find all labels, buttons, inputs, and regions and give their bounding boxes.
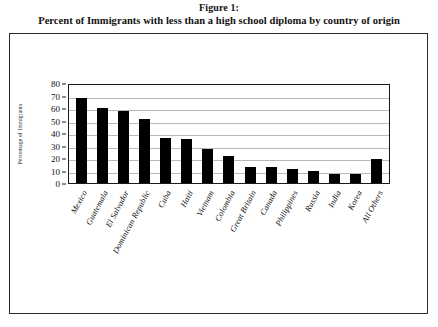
x-label-slot: Guatemala <box>96 186 107 306</box>
y-tick-mark <box>62 159 66 160</box>
plot-area <box>68 84 390 184</box>
bar[interactable] <box>139 119 150 183</box>
bar[interactable] <box>76 98 87 183</box>
x-tick-label: Canada <box>259 189 280 217</box>
bar[interactable] <box>223 156 234 184</box>
bar[interactable] <box>118 111 129 184</box>
y-tick-label: 60 <box>51 105 60 114</box>
figure-caption: Figure 1: Percent of Immigrants with les… <box>0 0 438 28</box>
x-tick-label: Mexico <box>69 189 89 215</box>
bar[interactable] <box>245 167 256 183</box>
figure-title: Percent of Immigrants with less than a h… <box>0 14 438 28</box>
x-tick-label: Korea <box>346 189 364 212</box>
bar[interactable] <box>308 171 319 184</box>
x-tick-label: Haiti <box>178 189 194 209</box>
x-axis-labels: MexicoGuatemalaEl SalvadorDominican Repu… <box>68 186 390 306</box>
x-tick-label: Vietnam <box>195 189 216 218</box>
y-tick-label: 50 <box>51 117 60 126</box>
x-label-slot: Philippines <box>287 186 298 306</box>
x-label-slot: All Others <box>372 186 383 306</box>
figure-number: Figure 1: <box>0 1 438 14</box>
y-tick-label: 10 <box>51 167 60 176</box>
x-tick-label: Philippines <box>274 189 300 228</box>
y-tick-label: 70 <box>51 92 60 101</box>
x-label-slot: Korea <box>351 186 362 306</box>
y-tick-label: 40 <box>51 130 60 139</box>
y-axis-title-label: Percentage of Immigrants <box>17 104 23 164</box>
bars-container <box>69 85 389 183</box>
x-label-slot: Vietnam <box>202 186 213 306</box>
bar[interactable] <box>329 174 340 183</box>
bar[interactable] <box>287 169 298 183</box>
bar[interactable] <box>266 167 277 183</box>
y-axis-title: Percentage of Immigrants <box>14 84 26 184</box>
y-tick-label: 80 <box>51 80 60 89</box>
x-label-slot: India <box>329 186 340 306</box>
y-axis-ticks: 80706050403020100 <box>32 84 66 184</box>
x-label-slot: Great Britain <box>245 186 256 306</box>
x-label-slot: Colombia <box>223 186 234 306</box>
x-tick-label: India <box>326 189 342 209</box>
y-tick-mark <box>62 96 66 97</box>
x-tick-label: Cuba <box>157 189 174 209</box>
x-label-slot: Dominican Republic <box>139 186 150 306</box>
x-label-slot: Cuba <box>160 186 171 306</box>
y-tick-label: 30 <box>51 142 60 151</box>
bar[interactable] <box>97 108 108 183</box>
bar[interactable] <box>202 149 213 183</box>
y-tick-mark <box>62 134 66 135</box>
y-tick-label: 0 <box>56 180 61 189</box>
y-tick-mark <box>62 146 66 147</box>
x-label-slot: Haiti <box>181 186 192 306</box>
bar[interactable] <box>371 159 382 183</box>
x-tick-label: All Others <box>361 189 386 224</box>
bar-chart: Percentage of Immigrants 807060504030201… <box>10 34 429 315</box>
y-tick-mark <box>62 109 66 110</box>
bar[interactable] <box>160 138 171 183</box>
y-tick-mark <box>62 184 66 185</box>
y-tick-mark <box>62 121 66 122</box>
x-tick-label: Russia <box>303 189 322 213</box>
y-tick-label: 20 <box>51 155 60 164</box>
y-tick-mark <box>62 84 66 85</box>
y-tick-mark <box>62 171 66 172</box>
figure-border-box: Percentage of Immigrants 807060504030201… <box>9 33 428 314</box>
x-label-slot: Russia <box>308 186 319 306</box>
x-label-slot: Mexico <box>75 186 86 306</box>
x-label-slot: Canada <box>266 186 277 306</box>
bar[interactable] <box>181 139 192 183</box>
bar[interactable] <box>350 174 361 183</box>
